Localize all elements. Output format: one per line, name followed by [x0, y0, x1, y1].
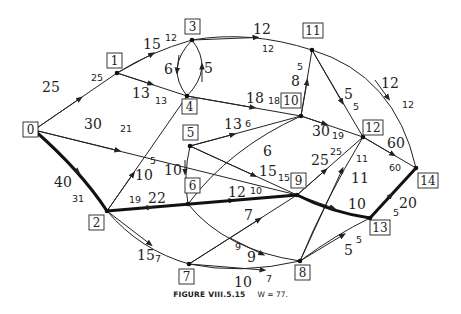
edge-10-11-arrow — [301, 82, 307, 116]
svg-text:8: 8 — [299, 266, 307, 280]
weight-9-13: 10 — [348, 196, 366, 212]
bound-0-1: 25 — [91, 72, 103, 83]
node-dot-14 — [414, 166, 419, 171]
edge-1-4-arrow — [117, 73, 151, 84]
bound-11-12: 5 — [353, 101, 359, 112]
node-label-10: 10 — [281, 93, 301, 108]
bound-5-9: 15 — [278, 172, 290, 183]
caption-value: W = 77. — [257, 290, 287, 299]
bound-11-14: 12 — [402, 99, 414, 110]
node-label-14: 14 — [418, 173, 438, 188]
node-dot-1 — [115, 71, 120, 76]
edge-3-4 — [177, 40, 192, 96]
svg-text:10: 10 — [283, 94, 298, 108]
bound-2-7: 7 — [155, 253, 161, 264]
critical-edge-0-2 — [34, 130, 107, 211]
caption-title: FIGURE VIII.5.15 — [173, 290, 245, 299]
bound-6-8: 9 — [235, 241, 241, 252]
weight-3-11: 12 — [253, 21, 271, 37]
network-diagram: 0 1 2 3 4 5 6 7 8 9 10 11 12 13 14 25 25… — [0, 0, 461, 314]
weight-13-14: 20 — [399, 195, 417, 211]
bound-0-9: 21 — [120, 123, 132, 134]
svg-text:3: 3 — [189, 20, 197, 34]
weight-2-4: 10 — [135, 167, 153, 183]
svg-text:9: 9 — [295, 174, 303, 188]
weight-7-8: 10 — [234, 274, 252, 290]
node-dot-5 — [188, 144, 193, 149]
weight-1-4: 13 — [132, 85, 150, 101]
weight-12-14: 60 — [387, 135, 405, 151]
weight-7-9: 7 — [244, 207, 253, 223]
edge-2-7-arrow — [107, 211, 150, 244]
bound-10-12: 19 — [332, 130, 344, 141]
bound-8-12: 11 — [356, 153, 368, 164]
weight-8-13: 5 — [344, 242, 353, 258]
weight-6-10: 6 — [263, 143, 272, 159]
bound-6-9: 10 — [250, 185, 262, 196]
bound-3-11: 12 — [262, 43, 274, 54]
edge-4-3 — [187, 40, 202, 96]
edge-5-6 — [186, 146, 190, 204]
bound-1-4: 13 — [155, 95, 167, 106]
node-label-3: 3 — [185, 19, 200, 34]
svg-text:12: 12 — [365, 121, 380, 135]
node-dot-7 — [187, 262, 192, 267]
svg-text:7: 7 — [183, 270, 191, 284]
weight-3-4: 6 — [164, 61, 173, 77]
figure-caption: FIGURE VIII.5.15 W = 77. — [0, 290, 461, 299]
weight-4-10: 18 — [246, 90, 264, 106]
bound-9-12: 25 — [330, 146, 342, 157]
svg-text:6: 6 — [189, 179, 197, 193]
edge-3-4-arrow — [177, 55, 179, 71]
node-dot-4 — [185, 94, 190, 99]
bound-2-9: 19 — [129, 194, 141, 205]
bound-4-10: 18 — [268, 95, 280, 106]
weight-5-10: 13 — [224, 116, 242, 132]
weight-4-3: 5 — [204, 60, 213, 76]
weight-0-9: 30 — [84, 116, 102, 132]
node-label-13: 13 — [370, 220, 390, 235]
weight-5-6: 10 — [164, 162, 182, 178]
edge-2-4-arrow — [107, 174, 133, 211]
node-label-0: 0 — [23, 122, 38, 137]
node-dot-3 — [190, 38, 195, 43]
bound-7-8: 7 — [266, 273, 272, 284]
node-dot-2 — [105, 209, 110, 214]
weight-1-3: 15 — [143, 36, 161, 52]
node-label-2: 2 — [89, 215, 104, 230]
weight-2-9: 22 — [148, 190, 166, 206]
bound-8-13: 5 — [356, 234, 362, 245]
weight-11-12: 5 — [344, 86, 353, 102]
weight-5-9: 15 — [259, 163, 277, 179]
svg-text:4: 4 — [186, 100, 194, 114]
weight-10-12: 30 — [312, 123, 330, 139]
bound-13-14: 5 — [393, 207, 399, 218]
weight-0-1: 25 — [42, 79, 60, 95]
svg-text:1: 1 — [111, 54, 119, 68]
node-label-8: 8 — [295, 265, 310, 280]
node-label-1: 1 — [107, 53, 122, 68]
node-dot-11 — [310, 48, 315, 53]
svg-text:14: 14 — [420, 174, 436, 188]
weight-9-12: 25 — [311, 152, 329, 168]
weight-6-8: 9 — [247, 249, 256, 265]
bound-10-11: 5 — [297, 61, 303, 72]
weight-10-11: 8 — [291, 73, 300, 89]
bound-0-2: 31 — [72, 193, 84, 204]
edge-0-1-arrow — [34, 99, 80, 131]
bound-12-14: 60 — [389, 162, 401, 173]
node-dot-9 — [295, 193, 300, 198]
edge-3-11 — [192, 37, 312, 50]
bound-5-10: 6 — [245, 118, 251, 129]
svg-text:13: 13 — [372, 221, 387, 235]
bound-1-3: 12 — [165, 32, 177, 43]
node-label-9: 9 — [291, 173, 306, 188]
svg-text:2: 2 — [93, 216, 101, 230]
node-label-4: 4 — [182, 99, 197, 114]
node-dot-6 — [186, 202, 191, 207]
svg-text:5: 5 — [187, 126, 195, 140]
weight-2-7: 15 — [137, 247, 155, 263]
weight-8-12: 11 — [351, 170, 369, 186]
weight-11-14: 12 — [381, 75, 399, 91]
edge-11-12-arrow — [312, 50, 342, 102]
